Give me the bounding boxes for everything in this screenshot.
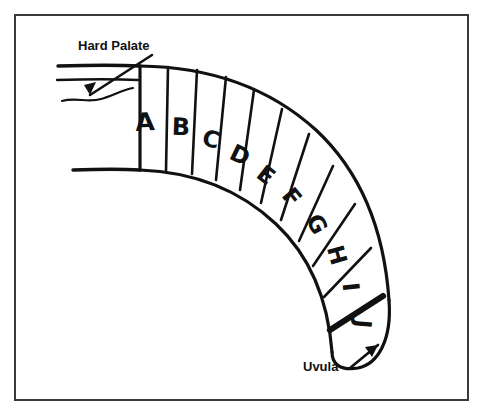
- segment-letter-i: I: [338, 281, 365, 292]
- figure-root: A B C D E F G H I J Hard Palate Uvula: [0, 0, 482, 412]
- uvula-callout: Uvula: [303, 345, 378, 374]
- hard-palate-lines: [57, 65, 140, 170]
- segment-letter-g: G: [301, 210, 333, 239]
- segment-letter-j: J: [350, 317, 377, 330]
- divider-b: [192, 70, 197, 174]
- hard-palate-upper-line: [58, 65, 140, 66]
- segment-letter-e: E: [252, 160, 280, 190]
- hard-palate-lower-line: [57, 79, 138, 80]
- uvula-label: Uvula: [303, 359, 339, 374]
- divider-a: [166, 67, 168, 171]
- divider-d: [240, 90, 254, 190]
- hard-palate-leader-line: [90, 55, 152, 95]
- segment-letters: A B C D E F G H I J: [135, 107, 377, 329]
- segment-letter-f: F: [277, 183, 307, 212]
- inner-base-line: [73, 169, 140, 170]
- palate-diagram-svg: A B C D E F G H I J Hard Palate Uvula: [0, 0, 482, 412]
- hard-palate-label: Hard Palate: [78, 38, 150, 53]
- figure-border: [15, 15, 468, 400]
- segment-letter-d: D: [226, 139, 255, 171]
- segment-letter-a: A: [135, 107, 156, 137]
- segment-letter-b: B: [171, 113, 190, 142]
